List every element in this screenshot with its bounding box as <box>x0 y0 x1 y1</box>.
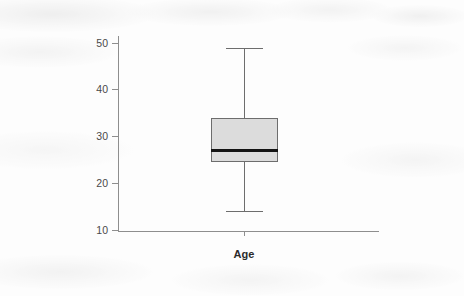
box-plot-figure: 50 40 30 20 10 Age <box>0 0 464 296</box>
x-tick-mark-age <box>244 231 245 236</box>
plot-area: 50 40 30 20 10 Age <box>0 0 464 296</box>
y-tick-label-50: 50 <box>0 38 108 49</box>
y-tick-label-20: 20 <box>0 178 108 189</box>
y-tick-mark-20 <box>112 183 118 184</box>
y-tick-mark-50 <box>112 43 118 44</box>
median-line <box>211 149 278 152</box>
upper-whisker-stem <box>244 48 245 118</box>
x-axis-line <box>118 231 379 232</box>
lower-whisker-stem <box>244 162 245 211</box>
y-tick-mark-10 <box>112 230 118 231</box>
interquartile-box <box>211 118 278 162</box>
x-axis-label: Age <box>204 249 284 260</box>
lower-whisker-cap <box>226 211 263 212</box>
y-tick-mark-40 <box>112 89 118 90</box>
y-tick-label-40: 40 <box>0 84 108 95</box>
y-tick-label-30: 30 <box>0 131 108 142</box>
y-axis-line <box>118 36 119 232</box>
y-tick-mark-30 <box>112 136 118 137</box>
y-tick-label-10: 10 <box>0 225 108 236</box>
